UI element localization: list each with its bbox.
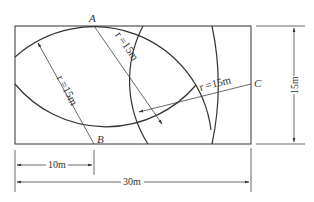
arc-centered-b	[15, 27, 211, 130]
field-diagram: A B C r =15m r =15m r =15m 15m 10m 30m	[0, 0, 314, 202]
offset-dimension-label: 10m	[48, 159, 66, 170]
point-label-b: B	[97, 133, 104, 145]
point-label-c: C	[254, 77, 262, 89]
arc-centered-a	[15, 84, 196, 127]
height-dimension-label: 15m	[289, 76, 300, 94]
width-dimension-label: 30m	[123, 176, 141, 187]
radius-line-c	[139, 84, 251, 112]
point-label-a: A	[88, 12, 96, 24]
radius-label-a: r =15m	[113, 29, 141, 63]
radius-label-b: r =15m	[55, 73, 81, 107]
